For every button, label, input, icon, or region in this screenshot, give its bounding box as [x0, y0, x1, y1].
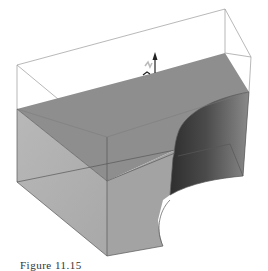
figure-caption: Figure 11.15 — [20, 259, 82, 271]
